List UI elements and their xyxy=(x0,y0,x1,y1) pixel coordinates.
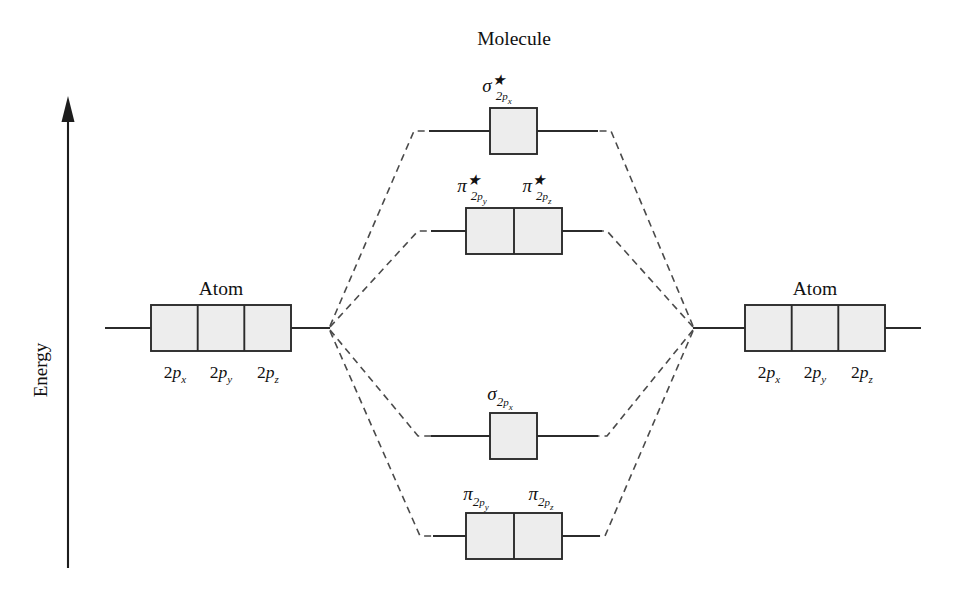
correlation-left-pi-star xyxy=(330,231,432,327)
pi-star-label-2pz: π★2pz xyxy=(522,172,552,206)
left-atom-label-2px: 2px xyxy=(164,362,187,385)
up-arrow-icon xyxy=(62,96,75,122)
sigma-star-orbital-box[interactable] xyxy=(490,108,537,154)
correlation-left-sigma-star xyxy=(330,131,430,326)
mo-diagram: Energy Atom Molecule Atom 2px 2py 2pz xyxy=(0,0,974,590)
sigma-orbital-box[interactable] xyxy=(490,413,537,459)
right-atom-title: Atom xyxy=(793,278,837,299)
mo-level-sigma-star-2px: σ★2px xyxy=(429,72,598,154)
right-atom-level: 2px 2py 2pz xyxy=(693,305,921,385)
correlation-right-pi-star xyxy=(593,231,693,327)
correlation-left-sigma xyxy=(330,330,432,436)
mo-level-sigma-2px: σ2px xyxy=(431,383,598,459)
correlation-left-pi xyxy=(330,331,434,536)
correlation-right-pi xyxy=(591,331,693,536)
right-atom-label-2px: 2px xyxy=(758,362,781,385)
mo-level-pi-2py-2pz: π2py π2pz xyxy=(433,483,600,559)
energy-axis-label: Energy xyxy=(30,342,51,397)
energy-axis: Energy xyxy=(30,96,75,568)
left-atom-label-2py: 2py xyxy=(210,362,233,385)
correlation-right-sigma xyxy=(593,330,693,436)
pi-label-2pz: π2pz xyxy=(528,483,554,512)
left-atom-orbital-boxes[interactable] xyxy=(151,305,291,351)
left-atom-label-2pz: 2pz xyxy=(257,362,280,385)
left-atom-level: 2px 2py 2pz xyxy=(105,305,330,385)
correlation-lines-left xyxy=(330,131,434,536)
right-atom-orbital-boxes[interactable] xyxy=(745,305,885,351)
mo-level-pi-star-2py-2pz: π★2py π★2pz xyxy=(431,172,602,254)
correlation-right-sigma-star xyxy=(597,131,693,326)
correlation-lines-right xyxy=(591,131,693,536)
left-atom-title: Atom xyxy=(199,278,243,299)
pi-label-2py: π2py xyxy=(463,483,489,512)
right-atom-label-2py: 2py xyxy=(804,362,827,385)
sigma-star-label: σ★2px xyxy=(482,72,511,106)
sigma-label: σ2px xyxy=(487,383,512,412)
mo-diagram-canvas: Energy Atom Molecule Atom 2px 2py 2pz xyxy=(0,0,974,590)
right-atom-label-2pz: 2pz xyxy=(851,362,874,385)
pi-star-label-2py: π★2py xyxy=(457,172,487,206)
molecule-title: Molecule xyxy=(477,28,551,49)
